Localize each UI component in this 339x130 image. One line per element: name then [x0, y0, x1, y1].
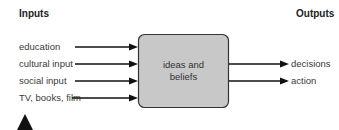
output-arrow-action — [229, 78, 289, 85]
center-box-line1: ideas and — [163, 59, 204, 71]
center-box-line2: beliefs — [170, 71, 197, 83]
input-arrow-cultural — [75, 61, 138, 68]
input-arrow-social — [75, 78, 138, 85]
triangle-marker-icon — [17, 114, 33, 130]
input-arrow-education — [75, 44, 138, 51]
center-box-label: ideas and beliefs — [138, 34, 229, 108]
input-arrow-media — [72, 95, 138, 102]
output-arrow-decisions — [229, 61, 289, 68]
